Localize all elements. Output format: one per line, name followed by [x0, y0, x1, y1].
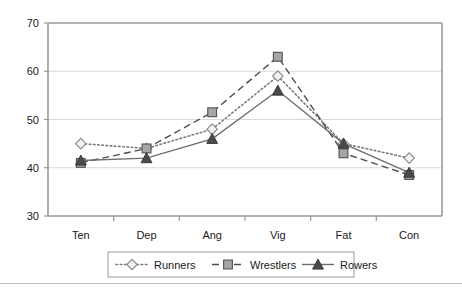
legend-label-wrestlers: Wrestlers — [250, 259, 297, 271]
x-axis-label-ten: Ten — [72, 229, 90, 241]
y-axis-label-30: 30 — [27, 210, 39, 222]
data-point-wrestlers-dep — [142, 144, 151, 153]
legend-label-rowers: Rowers — [340, 259, 378, 271]
legend-marker-square-icon — [224, 260, 233, 269]
data-point-wrestlers-ang — [208, 108, 217, 117]
x-axis-label-con: Con — [399, 229, 419, 241]
data-point-wrestlers-vig — [273, 52, 282, 61]
legend-label-runners: Runners — [154, 259, 196, 271]
y-axis-label-50: 50 — [27, 114, 39, 126]
chart-figure: 3040506070 TenDepAngVigFatCon RunnersWre… — [0, 0, 462, 293]
y-axis-label-40: 40 — [27, 162, 39, 174]
x-axis-label-fat: Fat — [336, 229, 352, 241]
x-axis-label-vig: Vig — [270, 229, 286, 241]
y-axis-label-70: 70 — [27, 17, 39, 29]
x-axis-label-ang: Ang — [202, 229, 222, 241]
x-axis-label-dep: Dep — [136, 229, 156, 241]
y-axis-label-60: 60 — [27, 65, 39, 77]
chart-background — [0, 0, 462, 293]
data-point-wrestlers-fat — [339, 149, 348, 158]
line-chart: 3040506070 TenDepAngVigFatCon RunnersWre… — [0, 0, 462, 293]
legend-item-wrestlers[interactable]: Wrestlers — [212, 259, 297, 271]
